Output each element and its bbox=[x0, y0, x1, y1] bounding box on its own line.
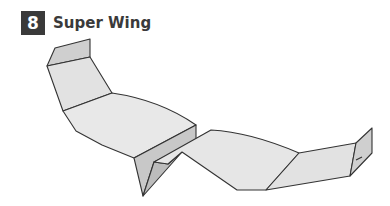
super-wing-illustration bbox=[0, 0, 390, 206]
